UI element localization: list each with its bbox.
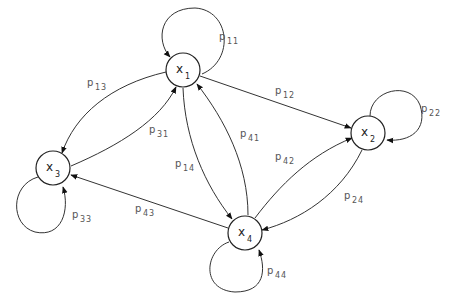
svg-text:12: 12 <box>283 91 295 100</box>
svg-text:p: p <box>275 151 282 162</box>
svg-text:33: 33 <box>80 215 92 224</box>
node-x2: x 2 <box>351 116 385 150</box>
label-p41: p41 <box>240 128 260 143</box>
svg-text:p: p <box>149 124 156 135</box>
edge-p33-loop <box>17 177 66 233</box>
svg-text:1: 1 <box>185 72 190 81</box>
edge-p13 <box>62 72 166 153</box>
svg-text:p: p <box>72 209 79 220</box>
svg-text:p: p <box>175 158 182 169</box>
svg-text:13: 13 <box>95 83 107 92</box>
node-x4: x 4 <box>228 216 262 250</box>
edge-p42 <box>255 138 352 218</box>
svg-text:4: 4 <box>247 235 252 244</box>
svg-text:p: p <box>219 31 226 42</box>
svg-text:43: 43 <box>143 209 155 218</box>
svg-text:31: 31 <box>157 130 169 139</box>
svg-text:14: 14 <box>183 164 195 173</box>
svg-text:x: x <box>176 62 183 76</box>
svg-text:p: p <box>267 265 274 276</box>
label-p33: p33 <box>72 209 92 224</box>
svg-text:p: p <box>135 203 142 214</box>
label-p44: p44 <box>267 265 287 280</box>
svg-text:22: 22 <box>429 109 441 118</box>
svg-text:3: 3 <box>55 170 60 179</box>
edge-p31 <box>71 87 176 166</box>
label-p24: p24 <box>344 190 364 205</box>
label-p14: p14 <box>175 158 195 173</box>
label-p42: p42 <box>275 151 295 166</box>
node-x1: x 1 <box>166 53 200 87</box>
label-p13: p13 <box>87 77 107 92</box>
svg-text:p: p <box>240 128 247 139</box>
edge-p43 <box>71 175 228 228</box>
svg-text:x: x <box>238 225 245 239</box>
svg-text:p: p <box>421 103 428 114</box>
edge-p41 <box>197 84 248 215</box>
edge-p12 <box>200 76 351 128</box>
svg-text:24: 24 <box>352 196 364 205</box>
label-p43: p43 <box>135 203 155 218</box>
svg-text:44: 44 <box>275 271 287 280</box>
svg-text:42: 42 <box>283 157 295 166</box>
svg-text:p: p <box>275 85 282 96</box>
svg-text:2: 2 <box>370 135 375 144</box>
svg-text:p: p <box>344 190 351 201</box>
label-p31: p31 <box>149 124 169 139</box>
label-p12: p12 <box>275 85 295 100</box>
svg-text:11: 11 <box>227 37 239 46</box>
label-p11: p11 <box>219 31 239 46</box>
svg-text:x: x <box>361 125 368 139</box>
svg-text:41: 41 <box>248 134 260 143</box>
label-p22: p22 <box>421 103 441 118</box>
state-transition-diagram: x 1 x 2 x 3 x 4 p11 p22 p33 p44 p12 p13 … <box>0 0 454 300</box>
svg-text:p: p <box>87 77 94 88</box>
svg-text:x: x <box>46 160 53 174</box>
edge-p44-loop <box>210 242 263 292</box>
edge-p14 <box>183 88 232 219</box>
node-x3: x 3 <box>36 151 70 185</box>
